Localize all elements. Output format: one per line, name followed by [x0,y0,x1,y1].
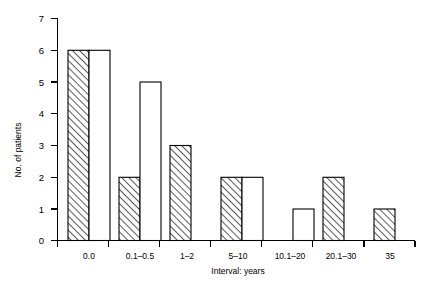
chart-canvas: 7 6 5 4 3 2 1 0 No. of patients [0,0,429,281]
bar-hatched-6 [374,209,395,241]
bar-hatched-3 [221,177,242,240]
y-tick-label-3: 3 [39,140,44,151]
y-tick-label-4: 4 [39,108,44,119]
chart-background [0,0,429,281]
x-category-label-5: 20.1–30 [326,251,357,261]
bar-hatched-0 [68,50,89,240]
x-category-label-3: 5–10 [229,251,248,261]
bar-hatched-5 [323,177,344,240]
y-tick-label-1: 1 [39,204,44,215]
bar-hatched-2 [170,146,191,241]
y-tick-label-5: 5 [39,77,44,88]
y-tick-label-2: 2 [39,172,44,183]
y-tick-label-7: 7 [39,13,44,24]
bar-open-0 [89,50,110,240]
bar-chart-figure: 7 6 5 4 3 2 1 0 No. of patients [0,0,429,281]
y-axis-title: No. of patients [13,123,23,178]
y-tick-label-0: 0 [39,235,44,246]
x-axis-title: Interval: years [211,266,264,276]
x-category-label-4: 10.1–20 [275,251,306,261]
bar-open-4 [293,209,314,241]
bar-hatched-1 [119,177,140,240]
y-tick-label-6: 6 [39,45,44,56]
x-category-label-6: 35 [385,251,395,261]
x-category-label-1: 0.1–0.5 [126,251,155,261]
x-category-label-0: 0.0 [83,251,95,261]
bar-open-3 [242,177,263,240]
x-category-label-2: 1–2 [180,251,194,261]
bar-open-1 [140,82,161,241]
